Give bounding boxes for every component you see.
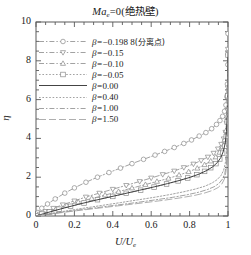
legend-marker (60, 51, 65, 55)
legend-label: β=0.00 (88, 81, 118, 91)
data-point-marker (63, 191, 68, 196)
legend-line-sample (38, 58, 88, 69)
legend-item: β=−0.05 (38, 69, 188, 80)
data-point-marker (205, 155, 210, 159)
legend-label: β=1.00 (88, 103, 118, 113)
legend-line-sample (38, 69, 88, 80)
data-point-marker (204, 130, 209, 135)
x-axis-label-main: U/U (115, 236, 133, 247)
data-point-marker (218, 118, 223, 123)
data-point-marker (172, 145, 177, 150)
data-point-marker (162, 149, 167, 154)
x-axis-tick-label: 0.8 (175, 219, 205, 230)
x-axis-tick-label: 0.6 (136, 219, 166, 230)
legend-line-sample (38, 92, 88, 103)
legend-item: β=−0.10 (38, 58, 188, 69)
legend-item: β=0.40 (38, 91, 188, 102)
legend-marker (61, 73, 66, 78)
legend-label: β=−0.05 (88, 70, 123, 80)
legend-label: β=−0.198 8(分离点) (88, 36, 165, 47)
legend-item: β=0.00 (38, 80, 188, 91)
data-point-marker (182, 141, 187, 146)
legend-line-sample (38, 114, 88, 125)
data-point-marker (107, 170, 112, 175)
data-point-marker (118, 166, 123, 171)
legend-label: β=1.50 (88, 114, 118, 124)
data-point-marker (45, 202, 50, 207)
x-axis-tick-label: 0.4 (98, 219, 128, 230)
y-axis-tick-label: 4 (9, 131, 31, 142)
legend-label: β=−0.10 (88, 59, 123, 69)
legend-item: β=1.00 (38, 103, 188, 114)
data-point-marker (72, 186, 77, 191)
x-axis-tick-label: 1 (213, 219, 243, 230)
legend-line-sample (38, 80, 88, 91)
data-point-marker (95, 175, 100, 180)
data-point-marker (199, 159, 204, 163)
y-axis-tick-label: 6 (9, 93, 31, 104)
legend-marker (60, 61, 65, 65)
legend-line-sample (38, 36, 88, 47)
legend-item: β=1.50 (38, 114, 188, 125)
x-axis-tick-label: 0.2 (59, 219, 89, 230)
x-axis-tick-label: 0 (21, 219, 51, 230)
data-point-marker (53, 197, 58, 202)
data-point-marker (202, 162, 207, 166)
legend-label: β=−0.15 (88, 48, 123, 58)
data-point-marker (130, 161, 135, 166)
legend-line-sample (38, 47, 88, 58)
x-axis-label-subscript: e (133, 241, 136, 249)
data-point-marker (153, 153, 158, 158)
y-axis-label: η (0, 115, 11, 120)
legend-marker (61, 39, 66, 44)
legend-item: β=−0.15 (38, 47, 188, 58)
data-point-marker (209, 126, 214, 131)
legend-label: β=0.40 (88, 92, 118, 102)
y-axis-tick-label: 10 (9, 15, 31, 26)
data-point-marker (197, 134, 202, 139)
data-point-marker (141, 157, 146, 162)
chart-figure: Mae=0(绝热壁) η U/Ue β=−0.198 8(分离点)β=−0.15… (0, 0, 251, 255)
data-point-marker (226, 31, 231, 36)
y-axis-tick-label: 2 (9, 170, 31, 181)
legend-item: β=−0.198 8(分离点) (38, 36, 188, 47)
y-axis-tick-label: 8 (9, 54, 31, 65)
data-point-marker (208, 158, 213, 162)
legend-line-sample (38, 103, 88, 114)
chart-legend: β=−0.198 8(分离点)β=−0.15β=−0.10β=−0.05β=0.… (38, 36, 188, 125)
x-axis-label: U/Ue (0, 236, 251, 249)
data-point-marker (189, 138, 194, 143)
data-point-marker (84, 180, 89, 185)
data-point-marker (214, 122, 219, 127)
